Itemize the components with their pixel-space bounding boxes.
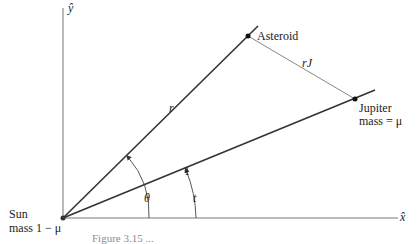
figure-caption: Figure 3.15 ...	[92, 232, 154, 244]
sun-jupiter-line	[63, 90, 375, 218]
sun-label: Sun	[9, 208, 28, 221]
theta-label: θ	[144, 192, 150, 205]
sun-mass-label: mass 1 − μ	[9, 222, 61, 235]
diagram-canvas: ŷ x̂ Asteroid Jupiter mass = μ Sun mass …	[0, 0, 417, 244]
sun-asteroid-line	[63, 26, 258, 218]
jupiter-point	[353, 97, 358, 102]
rj-label: rJ	[302, 57, 312, 70]
diagram-lines	[0, 0, 417, 244]
sun-point	[61, 216, 66, 221]
t-label: t	[193, 192, 196, 205]
asteroid-point	[246, 34, 251, 39]
r-label: r	[169, 102, 174, 115]
unit-distance-label: 1	[184, 165, 190, 178]
y-axis-label: ŷ	[68, 2, 73, 15]
x-axis-label: x̂	[400, 211, 405, 224]
jupiter-mass-label: mass = μ	[359, 115, 402, 128]
asteroid-label: Asteroid	[257, 30, 298, 43]
